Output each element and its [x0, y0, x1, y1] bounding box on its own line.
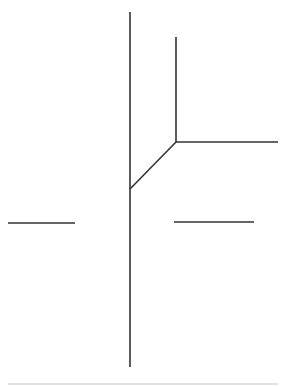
line-diagram [0, 0, 290, 386]
diagonal-line [130, 142, 176, 189]
diagram-segments [8, 12, 278, 367]
